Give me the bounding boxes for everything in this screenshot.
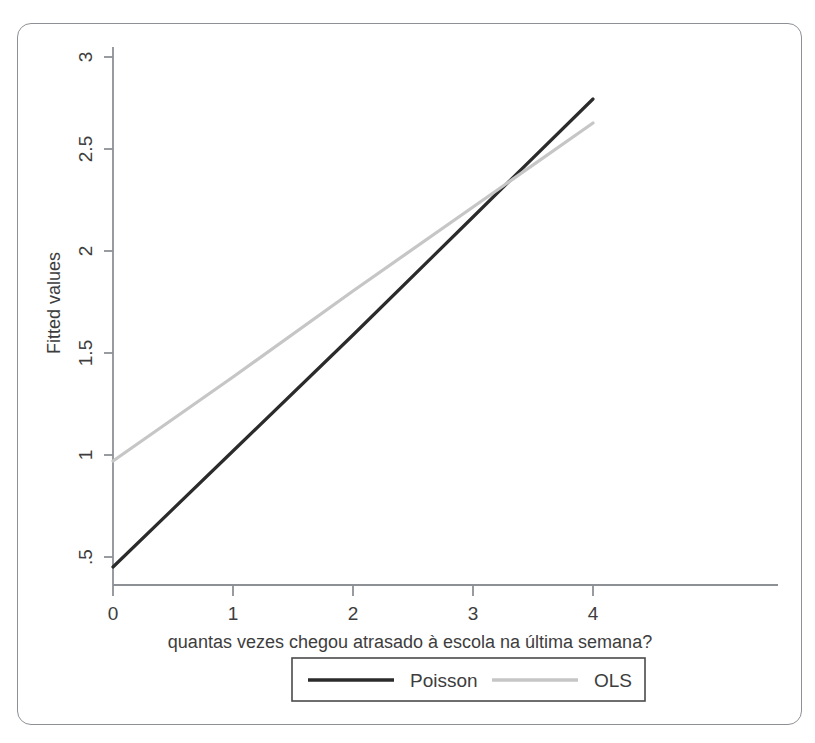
x-tick-label-0: 0 — [108, 603, 119, 624]
legend-label-poisson: Poisson — [410, 670, 478, 691]
y-tick-label-4: 2.5 — [75, 136, 96, 162]
x-tick-label-2: 2 — [348, 603, 359, 624]
y-tick-label-1: 1 — [75, 450, 96, 461]
y-tick-label-2: 1.5 — [75, 340, 96, 366]
series-line-ols — [113, 123, 593, 461]
x-axis-title: quantas vezes chegou atrasado à escola n… — [168, 632, 652, 652]
y-tick-label-5: 3 — [75, 52, 96, 63]
x-tick-label-4: 4 — [588, 603, 599, 624]
x-tick-label-3: 3 — [468, 603, 479, 624]
chart-plot-area: .5 1 1.5 2 2.5 3 Fitted values 0 1 2 3 4… — [0, 0, 815, 743]
series-line-poisson — [113, 99, 593, 567]
y-tick-label-3: 2 — [75, 246, 96, 257]
figure-canvas: .5 1 1.5 2 2.5 3 Fitted values 0 1 2 3 4… — [0, 0, 815, 743]
y-tick-label-0: .5 — [75, 549, 96, 565]
x-tick-label-1: 1 — [228, 603, 239, 624]
y-axis-title: Fitted values — [44, 252, 64, 354]
legend-label-ols: OLS — [594, 670, 632, 691]
